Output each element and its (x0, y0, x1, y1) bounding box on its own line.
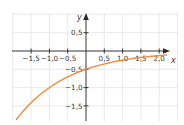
y-tick-label: −1,0 (65, 83, 83, 92)
y-tick-label: −0,5 (65, 65, 82, 74)
y-tick-label: 0,5 (71, 28, 82, 37)
x-tick-label: 1,0 (117, 54, 129, 63)
x-tick-label: −0,5 (59, 54, 76, 63)
x-tick-label: −1,0 (41, 54, 59, 63)
function-graph: x y −1,5−1,0−0,50,51,01,52,00,5−0,5−1,0−… (0, 0, 184, 125)
y-axis-label: y (76, 13, 82, 22)
function-curve (16, 55, 166, 119)
x-tick-label: 0,5 (99, 54, 110, 63)
x-axis-arrow-icon (163, 48, 170, 54)
y-tick-label: −1,5 (65, 102, 82, 111)
x-axis-label: x (170, 56, 176, 65)
x-tick-label: −1,5 (22, 54, 39, 63)
